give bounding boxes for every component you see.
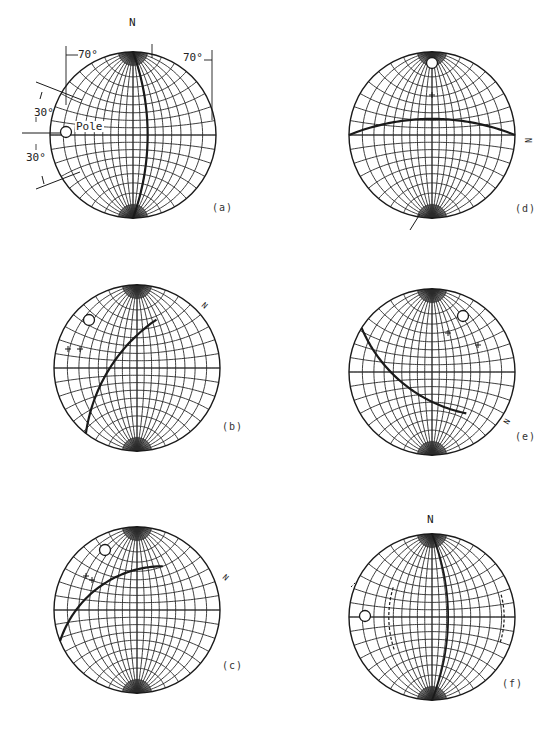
angle-label-lower: 30° — [26, 152, 46, 163]
panel-label-a: (a) — [212, 202, 233, 213]
angle-label-upper: 30° — [34, 107, 54, 118]
wulff-net-d: N — [349, 52, 532, 218]
wulff-net-f — [349, 534, 515, 700]
north-label-f: N — [427, 514, 434, 525]
panel-label-d: (d) — [515, 203, 536, 214]
wulff-net-c: N — [54, 527, 230, 693]
angle-label-left-top: 70° — [78, 49, 98, 60]
panel-label-f: (f) — [502, 678, 523, 689]
panel-label-e: (e) — [515, 431, 536, 442]
svg-text:N: N — [221, 573, 231, 583]
north-label-a: N — [129, 17, 136, 28]
svg-text:N: N — [200, 301, 210, 311]
wulff-net-e: N — [349, 289, 515, 455]
panel-label-b: (b) — [222, 421, 243, 432]
svg-text:N: N — [502, 417, 512, 426]
wulff-net-a — [50, 52, 216, 218]
panel-label-c: (c) — [222, 660, 243, 671]
angle-label-right-top: 70° — [183, 52, 203, 63]
wulff-net-b: N — [54, 285, 220, 451]
svg-text:N: N — [523, 138, 532, 143]
figure-canvas: N N N N — [0, 0, 555, 748]
pole-label: Pole — [75, 121, 104, 132]
